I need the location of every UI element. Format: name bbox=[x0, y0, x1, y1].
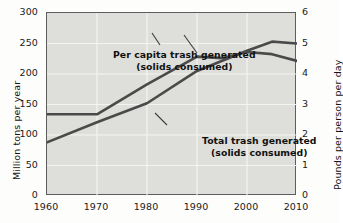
x-axis-tick-label: 1990 bbox=[176, 201, 216, 212]
x-axis-tick-label: 2010 bbox=[276, 201, 316, 212]
y-axis-tick-label: 250 bbox=[8, 37, 38, 48]
y-axis-tick-label: 300 bbox=[8, 6, 38, 17]
plot-canvas bbox=[47, 13, 297, 196]
x-axis-tick-label: 2000 bbox=[226, 201, 266, 212]
y2-axis-tick-label: 6 bbox=[302, 6, 326, 17]
y2-axis-tick-label: 0 bbox=[302, 189, 326, 200]
annotation-per-capita-line2: (solids consumed) bbox=[113, 61, 256, 73]
y-axis-tick-label: 0 bbox=[8, 189, 38, 200]
y2-axis-tick-label: 1 bbox=[302, 159, 326, 170]
y2-axis-tick-label: 3 bbox=[302, 98, 326, 109]
annotation-total-line2: (solids consumed) bbox=[202, 147, 317, 159]
x-axis-tick-label: 1960 bbox=[26, 201, 66, 212]
y-axis-title: Million tons per year bbox=[11, 81, 22, 180]
y2-axis-title: Pounds per person per day bbox=[332, 60, 343, 190]
y-axis-tick-label: 200 bbox=[8, 67, 38, 78]
annotation-per-capita-line1: Per capita trash generated bbox=[113, 49, 256, 61]
annotation-per-capita: Per capita trash generated (solids consu… bbox=[113, 49, 256, 72]
annotation-total-line1: Total trash generated bbox=[202, 135, 317, 147]
y2-axis-tick-label: 5 bbox=[302, 37, 326, 48]
gridlines bbox=[47, 13, 297, 196]
plot-area: Per capita trash generated (solids consu… bbox=[46, 12, 296, 195]
x-axis-tick-label: 1970 bbox=[76, 201, 116, 212]
y2-axis-tick-label: 4 bbox=[302, 67, 326, 78]
x-axis-tick-label: 1980 bbox=[126, 201, 166, 212]
annotation-total: Total trash generated (solids consumed) bbox=[202, 135, 317, 158]
